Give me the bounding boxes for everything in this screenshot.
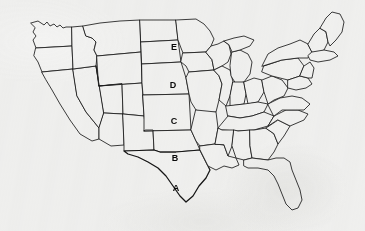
state-minnesota xyxy=(176,19,214,53)
state-north-dakota xyxy=(140,20,178,42)
state-florida xyxy=(244,158,302,210)
map-page: E D C B A xyxy=(0,0,365,231)
region-label-c: C xyxy=(171,117,178,126)
state-washington xyxy=(31,21,72,48)
state-nebraska xyxy=(142,62,189,95)
region-label-e: E xyxy=(171,43,177,52)
region-label-b: B xyxy=(172,154,179,163)
us-outline-map xyxy=(0,0,365,231)
state-wyoming xyxy=(97,52,142,86)
state-missouri xyxy=(186,70,222,113)
state-alabama xyxy=(232,130,252,160)
region-label-a: A xyxy=(173,184,180,193)
state-massachusetts-connecticut xyxy=(308,50,338,62)
state-oregon xyxy=(34,46,73,72)
region-label-d: D xyxy=(170,81,177,90)
state-ohio xyxy=(244,78,264,104)
state-michigan-lower xyxy=(230,50,252,84)
state-arizona xyxy=(99,113,124,146)
state-kansas xyxy=(143,94,191,131)
state-indiana xyxy=(230,82,246,106)
state-texas xyxy=(124,150,210,202)
